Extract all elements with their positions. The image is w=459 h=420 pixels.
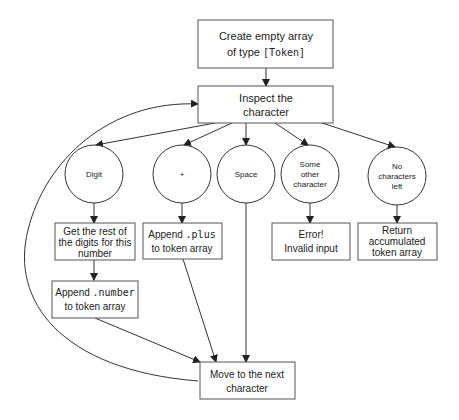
node-no-characters-left: No characters left	[368, 147, 426, 205]
svg-text:Return: Return	[382, 225, 412, 236]
svg-text:Space: Space	[235, 170, 258, 179]
svg-text:other: other	[301, 170, 320, 179]
node-plus: +	[153, 145, 211, 203]
svg-text:character: character	[243, 106, 289, 118]
svg-text:Append .number: Append .number	[55, 287, 134, 298]
edge-appendplus-move	[183, 259, 216, 362]
svg-text:Create empty array: Create empty array	[219, 30, 314, 42]
svg-text:+: +	[180, 170, 185, 179]
node-digit: Digit	[65, 145, 123, 203]
svg-text:left: left	[392, 182, 403, 191]
svg-text:Inspect the: Inspect the	[239, 92, 293, 104]
svg-text:Some: Some	[300, 160, 321, 169]
svg-text:Invalid input: Invalid input	[284, 243, 338, 254]
node-inspect-character: Inspect the character	[198, 86, 333, 123]
node-get-rest-digits: Get the rest of the digits for this numb…	[55, 223, 135, 260]
node-append-plus: Append .plus to token array	[143, 223, 222, 259]
svg-text:Digit: Digit	[86, 170, 103, 179]
node-append-number: Append .number to token array	[52, 281, 138, 318]
svg-text:token array: token array	[372, 247, 422, 258]
node-move-next: Move to the next character	[200, 362, 295, 399]
edge-inspect-plus	[184, 123, 232, 145]
node-space: Space	[217, 145, 275, 203]
svg-text:number: number	[78, 248, 113, 259]
svg-text:characters: characters	[378, 172, 415, 181]
svg-text:No: No	[392, 162, 403, 171]
edge-inspect-other	[275, 123, 308, 145]
svg-text:Move to the next: Move to the next	[210, 369, 284, 380]
svg-text:Error!: Error!	[299, 229, 324, 240]
node-other-character: Some other character	[281, 145, 339, 203]
node-return-array: Return accumulated token array	[358, 223, 437, 260]
svg-text:Append .plus: Append .plus	[148, 229, 215, 240]
svg-text:to token array: to token array	[151, 243, 212, 254]
svg-text:the digits for this: the digits for this	[59, 237, 132, 248]
node-create-array: Create empty array of type [Token]	[198, 20, 333, 68]
svg-text:to token array: to token array	[64, 301, 125, 312]
svg-text:accumulated: accumulated	[369, 236, 426, 247]
svg-text:Get the rest of: Get the rest of	[63, 226, 127, 237]
svg-text:of type [Token]: of type [Token]	[227, 46, 305, 58]
svg-text:character: character	[226, 383, 268, 394]
edge-inspect-digit	[96, 123, 215, 145]
tokenizer-flowchart: Create empty array of type [Token] Inspe…	[0, 0, 459, 420]
node-error: Error! Invalid input	[272, 223, 350, 260]
svg-text:character: character	[293, 180, 327, 189]
edge-appendnum-move	[95, 318, 200, 362]
